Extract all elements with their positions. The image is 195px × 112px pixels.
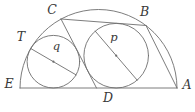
outer-arc	[20, 10, 177, 89]
label-c: C	[47, 2, 57, 17]
circle-q-center-dot	[52, 61, 54, 63]
chord-ba	[146, 26, 177, 89]
label-e: E	[3, 76, 13, 91]
label-t: T	[17, 29, 27, 44]
geometry-diagram: C B T E A D q p	[0, 0, 195, 112]
label-b: B	[139, 4, 149, 19]
label-d: D	[102, 90, 113, 105]
label-a: A	[181, 77, 191, 92]
label-p: p	[110, 30, 118, 44]
chord-cb	[61, 19, 146, 26]
circle-p-center-dot	[115, 55, 117, 57]
label-q: q	[53, 39, 60, 53]
geometry-diagram-svg: C B T E A D q p	[0, 0, 195, 112]
